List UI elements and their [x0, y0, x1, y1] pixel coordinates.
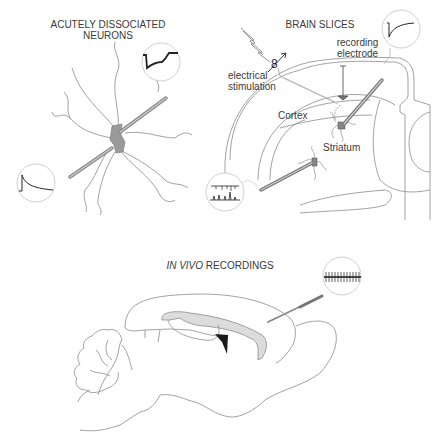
- stim-label-line-2: stimulation: [228, 81, 276, 92]
- svg-text:8: 8: [271, 57, 278, 71]
- stimulation-lead-2: [283, 78, 338, 104]
- slice-cortical-neuron: [335, 66, 348, 120]
- slice-electrode-upper: [344, 80, 382, 124]
- title-rest-part: RECORDINGS: [203, 260, 274, 271]
- stim-label-line-1: electrical: [228, 70, 276, 81]
- inset-trace-top-right: [382, 10, 420, 64]
- cortex-label: Cortex: [278, 110, 307, 121]
- recording-label-line-2: electrode: [330, 48, 385, 59]
- inset-trace-spontaneous: [206, 173, 258, 211]
- inset-trace-spike-train: [323, 257, 361, 295]
- stimulation-lead: [278, 68, 335, 102]
- slice-electrode-lower: [261, 163, 312, 190]
- lightning-bolt-icon: [241, 28, 270, 62]
- title-italic-part: IN VIVO: [166, 260, 203, 271]
- inset-trace-top: [142, 43, 180, 81]
- title-line-1: ACUTELY DISSOCIATED: [40, 19, 176, 30]
- sagittal-brain-outline: [74, 294, 336, 431]
- striatum-label: Striatum: [323, 142, 360, 153]
- inset-trace-left: [17, 164, 55, 202]
- title-line-2: NEURONS: [40, 30, 176, 41]
- diagram-canvas: 8: [0, 0, 432, 443]
- recording-electrode-label: recording electrode: [330, 37, 385, 59]
- panel-title-invivo: IN VIVO RECORDINGS: [150, 260, 290, 271]
- electrical-stimulation-label: electrical stimulation: [228, 70, 276, 92]
- recording-label-line-1: recording: [330, 37, 385, 48]
- panel-title-dissociated: ACUTELY DISSOCIATED NEURONS: [40, 19, 176, 41]
- panel-title-slices: BRAIN SLICES: [275, 19, 365, 30]
